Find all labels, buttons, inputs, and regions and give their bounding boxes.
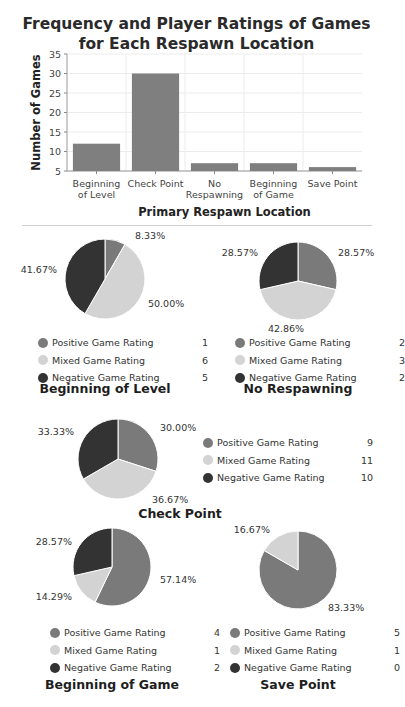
legend-value: 4 bbox=[200, 627, 220, 638]
percent-label: 33.33% bbox=[38, 426, 74, 437]
percent-label: 28.57% bbox=[222, 247, 258, 258]
percent-label: 36.67% bbox=[152, 494, 188, 505]
legend-label: Positive Game Rating bbox=[64, 627, 200, 638]
percent-label: 16.67% bbox=[234, 524, 270, 535]
legend-save-point: Positive Game Rating5Mixed Game Rating1N… bbox=[230, 624, 400, 677]
legend-item: Mixed Game Rating1 bbox=[230, 642, 400, 660]
legend-item: Positive Game Rating2 bbox=[235, 334, 405, 352]
legend-label: Positive Game Rating bbox=[217, 437, 353, 448]
legend-value: 10 bbox=[353, 472, 373, 483]
percent-label: 41.67% bbox=[21, 264, 57, 275]
legend-label: Negative Game Rating bbox=[244, 662, 380, 673]
percent-label: 8.33% bbox=[135, 230, 165, 241]
percent-label: 57.14% bbox=[160, 574, 196, 585]
legend-swatch-icon bbox=[50, 645, 60, 655]
percent-label: 50.00% bbox=[148, 298, 184, 309]
legend-swatch-icon bbox=[203, 473, 213, 483]
pie-slice bbox=[73, 528, 112, 576]
legend-value: 2 bbox=[200, 662, 220, 673]
percent-label: 14.29% bbox=[36, 591, 72, 602]
percent-label: 28.57% bbox=[36, 536, 72, 547]
legend-swatch-icon bbox=[235, 355, 245, 365]
legend-swatch-icon bbox=[230, 645, 240, 655]
legend-label: Mixed Game Rating bbox=[52, 355, 188, 366]
legend-value: 9 bbox=[353, 437, 373, 448]
legend-label: Mixed Game Rating bbox=[244, 645, 380, 656]
pie-beginning-of-level: 8.33%50.00%41.67% bbox=[21, 230, 184, 319]
legend-item: Positive Game Rating5 bbox=[230, 624, 400, 642]
legend-value: 6 bbox=[188, 355, 208, 366]
legend-check-point: Positive Game Rating9Mixed Game Rating11… bbox=[203, 434, 373, 487]
legend-value: 0 bbox=[380, 662, 400, 673]
legend-swatch-icon bbox=[38, 355, 48, 365]
legend-label: Positive Game Rating bbox=[244, 627, 380, 638]
legend-item: Mixed Game Rating6 bbox=[38, 352, 208, 370]
percent-label: 28.57% bbox=[338, 247, 374, 258]
legend-label: Negative Game Rating bbox=[64, 662, 200, 673]
legend-swatch-icon bbox=[203, 455, 213, 465]
legend-label: Mixed Game Rating bbox=[249, 355, 385, 366]
legend-item: Negative Game Rating10 bbox=[203, 469, 373, 487]
legend-value: 5 bbox=[188, 372, 208, 383]
legend-swatch-icon bbox=[230, 628, 240, 638]
pie-title-no-respawning: No Respawning bbox=[218, 381, 378, 396]
legend-swatch-icon bbox=[38, 338, 48, 348]
legend-value: 2 bbox=[385, 372, 405, 383]
pie-slice bbox=[259, 242, 298, 290]
pie-no-respawning: 28.57%42.86%28.57% bbox=[222, 242, 374, 334]
pie-title-check-point: Check Point bbox=[100, 506, 260, 521]
legend-item: Negative Game Rating0 bbox=[230, 659, 400, 677]
legend-beginning-of-level: Positive Game Rating1Mixed Game Rating6N… bbox=[38, 334, 208, 387]
legend-swatch-icon bbox=[230, 663, 240, 673]
legend-value: 3 bbox=[385, 355, 405, 366]
legend-no-respawning: Positive Game Rating2Mixed Game Rating3N… bbox=[235, 334, 405, 387]
percent-label: 30.00% bbox=[160, 422, 196, 433]
legend-label: Mixed Game Rating bbox=[64, 645, 200, 656]
legend-item: Mixed Game Rating1 bbox=[50, 642, 220, 660]
legend-label: Negative Game Rating bbox=[217, 472, 353, 483]
legend-value: 11 bbox=[353, 455, 373, 466]
pie-check-point: 30.00%36.67%33.33% bbox=[38, 419, 196, 505]
percent-label: 83.33% bbox=[328, 602, 364, 613]
legend-item: Positive Game Rating1 bbox=[38, 334, 208, 352]
legend-value: 1 bbox=[200, 645, 220, 656]
legend-label: Positive Game Rating bbox=[52, 337, 188, 348]
legend-item: Negative Game Rating2 bbox=[50, 659, 220, 677]
percent-label: 42.86% bbox=[268, 323, 304, 334]
legend-value: 5 bbox=[380, 627, 400, 638]
legend-item: Positive Game Rating4 bbox=[50, 624, 220, 642]
pie-title-save-point: Save Point bbox=[218, 677, 378, 692]
legend-label: Positive Game Rating bbox=[249, 337, 385, 348]
legend-swatch-icon bbox=[50, 663, 60, 673]
pie-beginning-of-game: 57.14%14.29%28.57% bbox=[36, 528, 196, 606]
legend-value: 2 bbox=[385, 337, 405, 348]
pie-title-beginning-of-level: Beginning of Level bbox=[25, 381, 185, 396]
legend-swatch-icon bbox=[203, 438, 213, 448]
legend-item: Mixed Game Rating3 bbox=[235, 352, 405, 370]
legend-beginning-of-game: Positive Game Rating4Mixed Game Rating1N… bbox=[50, 624, 220, 677]
pie-save-point: 83.33%16.67% bbox=[234, 524, 364, 613]
legend-value: 1 bbox=[188, 337, 208, 348]
legend-swatch-icon bbox=[50, 628, 60, 638]
legend-value: 1 bbox=[380, 645, 400, 656]
legend-item: Mixed Game Rating11 bbox=[203, 452, 373, 470]
pie-title-beginning-of-game: Beginning of Game bbox=[32, 677, 192, 692]
legend-label: Mixed Game Rating bbox=[217, 455, 353, 466]
legend-swatch-icon bbox=[235, 338, 245, 348]
legend-item: Positive Game Rating9 bbox=[203, 434, 373, 452]
